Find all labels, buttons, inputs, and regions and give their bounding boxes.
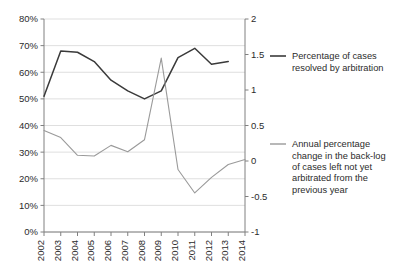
gridlines [44, 19, 245, 232]
left-value-axis: 0%10%20%30%40%50%60%70%80% [19, 13, 44, 237]
legend-label: of cases left not yet [292, 162, 373, 172]
x-axis-tick-label: 2005 [85, 240, 96, 261]
legend-label: change in the back-log [292, 151, 386, 161]
right-axis-tick-label: 1.5 [251, 49, 264, 60]
x-axis-tick-label: 2004 [69, 240, 80, 261]
legend-label: resolved by arbitration [292, 63, 383, 73]
right-axis-tick-label: -0.5 [251, 191, 267, 202]
category-axis: 2002200320042005200620072008200920102011… [35, 232, 247, 261]
left-axis-tick-label: 40% [19, 120, 39, 131]
right-value-axis: -1-0.500.511.52 [245, 13, 267, 237]
x-axis-tick-label: 2003 [52, 240, 63, 261]
x-axis-tick-label: 2006 [102, 240, 113, 261]
x-axis-tick-label: 2008 [136, 240, 147, 261]
x-axis-tick-label: 2014 [236, 240, 247, 261]
x-axis-tick-label: 2007 [119, 240, 130, 261]
chart-container: 0%10%20%30%40%50%60%70%80% -1-0.500.511.… [0, 0, 417, 269]
right-axis-tick-label: 2 [251, 13, 256, 24]
left-axis-tick-label: 60% [19, 67, 39, 78]
x-axis-tick-label: 2009 [152, 240, 163, 261]
dual-axis-line-chart: 0%10%20%30%40%50%60%70%80% -1-0.500.511.… [0, 0, 417, 269]
right-axis-tick-label: 0.5 [251, 120, 264, 131]
right-axis-tick-label: 1 [251, 84, 256, 95]
legend-label: arbitrated from the [292, 173, 368, 183]
left-axis-tick-label: 20% [19, 173, 39, 184]
x-axis-tick-label: 2012 [203, 240, 214, 261]
left-axis-tick-label: 30% [19, 147, 39, 158]
left-axis-tick-label: 0% [24, 226, 38, 237]
x-axis-tick-label: 2010 [169, 240, 180, 261]
chart-legend: Percentage of casesresolved by arbitrati… [270, 51, 386, 195]
series-line-primary [44, 48, 228, 99]
legend-label: previous year [292, 185, 348, 195]
series-lines [44, 48, 245, 193]
x-axis-tick-label: 2013 [219, 240, 230, 261]
left-axis-tick-label: 70% [19, 40, 39, 51]
right-axis-tick-label: -1 [251, 226, 259, 237]
left-axis-tick-label: 10% [19, 200, 39, 211]
left-axis-tick-label: 80% [19, 13, 39, 24]
x-axis-tick-label: 2011 [186, 240, 197, 260]
legend-label: Percentage of cases [292, 51, 377, 61]
x-axis-tick-label: 2002 [35, 240, 46, 261]
right-axis-tick-label: 0 [251, 155, 256, 166]
left-axis-tick-label: 50% [19, 93, 39, 104]
legend-label: Annual percentage [292, 139, 370, 149]
